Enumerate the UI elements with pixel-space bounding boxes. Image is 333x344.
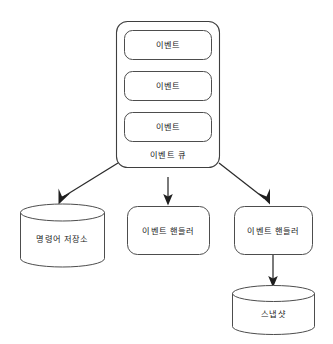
- edge-queue-to-command-store: [59, 163, 119, 205]
- node-snapshot[interactable]: 스냅샷: [233, 286, 315, 335]
- event-queue-item-1-label: 이벤트: [156, 40, 181, 50]
- edge-queue-to-event-handler-right: [219, 163, 270, 205]
- event-queue-item-1[interactable]: 이벤트: [125, 31, 212, 60]
- diagram-canvas: 이벤트 이벤트 이벤트 이벤트 큐 명령어 저장소 이벤트 핸들러: [0, 0, 333, 344]
- diagram-root: 이벤트 이벤트 이벤트 이벤트 큐 명령어 저장소 이벤트 핸들러: [0, 0, 333, 344]
- edge-queue-to-event-handler-center: [163, 177, 173, 206]
- node-event-handler-center[interactable]: 이벤트 핸들러: [128, 207, 210, 255]
- edge-event-handler-right-to-snapshot: [268, 255, 278, 288]
- node-event-handler-right[interactable]: 이벤트 핸들러: [235, 207, 313, 255]
- event-queue-label: 이벤트 큐: [150, 150, 186, 160]
- command-store-label: 명령어 저장소: [36, 234, 88, 244]
- event-queue-item-3-label: 이벤트: [156, 122, 181, 132]
- event-queue-item-3[interactable]: 이벤트: [125, 113, 212, 142]
- event-handler-center-label: 이벤트 핸들러: [142, 226, 194, 236]
- node-event-queue[interactable]: 이벤트 이벤트 이벤트 이벤트 큐: [117, 22, 220, 168]
- event-handler-right-label: 이벤트 핸들러: [247, 226, 299, 236]
- snapshot-label: 스냅샷: [261, 309, 286, 319]
- node-command-store[interactable]: 명령어 저장소: [21, 204, 105, 267]
- event-queue-item-2-label: 이벤트: [156, 81, 181, 91]
- event-queue-item-2[interactable]: 이벤트: [125, 72, 212, 101]
